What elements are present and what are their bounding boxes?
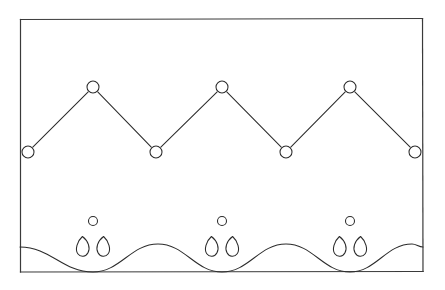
cluster-bud-circle (89, 217, 98, 226)
zigzag-node-peak-2 (216, 81, 228, 93)
figure-svg (0, 0, 445, 290)
frame-right-edge (423, 19, 424, 272)
canvas-background (0, 0, 445, 290)
cluster-bud-circle (346, 217, 355, 226)
drawing-canvas (0, 0, 445, 290)
cluster-bud-circle (218, 217, 227, 226)
zigzag-node-valley-3 (280, 146, 292, 158)
zigzag-node-peak-1 (87, 81, 99, 93)
zigzag-node-peak-3 (344, 81, 356, 93)
zigzag-node-valley-4 (409, 146, 421, 158)
zigzag-node-valley-1 (22, 146, 34, 158)
zigzag-node-valley-2 (150, 146, 162, 158)
